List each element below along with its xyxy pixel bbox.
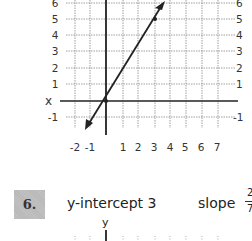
coordinate-grid bbox=[0, 0, 252, 135]
y-label-right: 2 bbox=[236, 63, 243, 74]
y-intercept-text: y-intercept 3 bbox=[67, 196, 156, 210]
grid-lines-horizontal bbox=[66, 3, 236, 117]
fraction-bar bbox=[245, 201, 252, 202]
x-tick-label: 2 bbox=[130, 142, 146, 153]
x-tick-label: 5 bbox=[177, 142, 193, 153]
problem-number-badge: 6. bbox=[14, 190, 45, 219]
x-tick-label: 7 bbox=[209, 142, 225, 153]
x-tick-label: -2 bbox=[67, 142, 83, 153]
y-label-left: 5 bbox=[48, 14, 62, 25]
y-label-right: 3 bbox=[236, 46, 243, 57]
y-label-left: -1 bbox=[44, 112, 62, 123]
slope-numerator: 2 bbox=[247, 188, 252, 198]
arrow-down-icon bbox=[85, 119, 93, 130]
slope-denominator: 7 bbox=[247, 204, 252, 214]
x-tick-label: 1 bbox=[115, 142, 131, 153]
y-label-left: 1 bbox=[48, 79, 62, 90]
y-label-right: 5 bbox=[236, 14, 243, 25]
x-tick-label: 3 bbox=[146, 142, 162, 153]
x-tick-label: 6 bbox=[193, 142, 209, 153]
point-3-5 bbox=[153, 17, 157, 21]
y-label-right: 4 bbox=[236, 30, 243, 41]
y-label-left: 2 bbox=[48, 63, 62, 74]
arrow-up-icon bbox=[155, 1, 165, 10]
x-tick-label: 4 bbox=[162, 142, 178, 153]
y-label-right: -1 bbox=[233, 112, 243, 123]
y-label-right: 6 bbox=[236, 0, 243, 9]
y-axis-label: y bbox=[102, 217, 109, 228]
y-label-left: 3 bbox=[48, 46, 62, 57]
y-label-right: 1 bbox=[236, 79, 243, 90]
y-label-left: 6 bbox=[48, 0, 62, 9]
next-grid-top bbox=[0, 228, 252, 241]
y-label-left: 4 bbox=[48, 30, 62, 41]
slope-label: slope bbox=[198, 196, 235, 210]
graphed-line bbox=[88, 5, 162, 125]
x-axis-label: x bbox=[45, 95, 52, 107]
point-origin bbox=[104, 99, 108, 103]
x-tick-label: -1 bbox=[82, 142, 98, 153]
problem-number: 6. bbox=[23, 197, 37, 212]
